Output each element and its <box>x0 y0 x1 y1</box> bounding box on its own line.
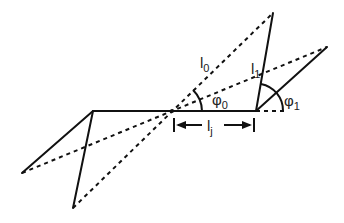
label-phi1: φ1 <box>284 92 300 112</box>
label-phi0: φ0 <box>212 91 228 111</box>
label-lj: lj <box>207 117 213 137</box>
lj-dimension <box>174 118 254 132</box>
linkage-diagram: l0 l1 φ0 φ1 lj <box>0 0 344 223</box>
label-l0: l0 <box>200 54 209 74</box>
pivot-point <box>170 109 174 113</box>
phi0-arc <box>193 90 202 111</box>
